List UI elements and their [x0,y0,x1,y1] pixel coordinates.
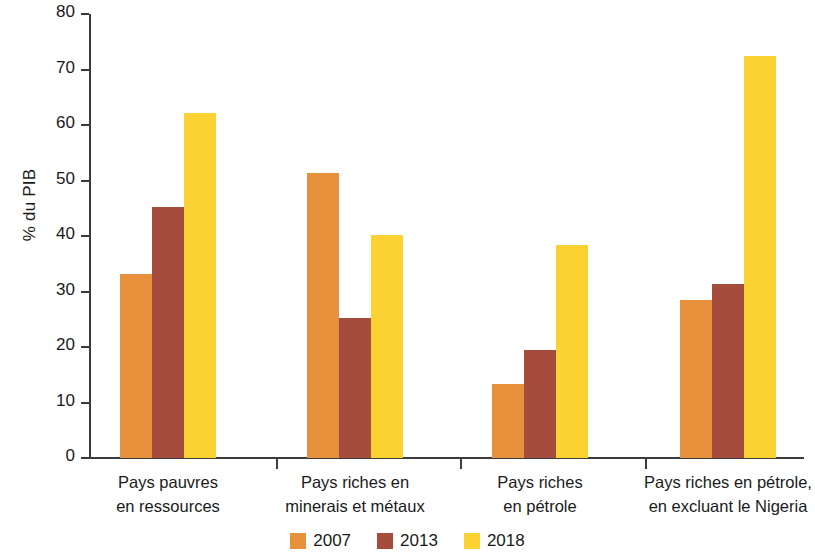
legend-swatch-2018 [464,533,480,549]
x-group-separator-1 [276,459,278,469]
category-label-3-line-1: Pays riches [430,470,650,494]
bar-2013-group-3 [524,350,556,458]
category-label-3-line-2: en pétrole [430,494,650,518]
y-tick-60: 60 [81,124,89,126]
y-axis-line [89,14,91,458]
bar-2007-group-1 [120,274,152,458]
y-tick-label-70: 70 [35,58,75,78]
bar-2007-group-3 [492,384,524,458]
y-tick-label-10: 10 [35,391,75,411]
bar-2018-group-3 [556,245,588,458]
plot-area: 80706050403020100 [89,14,804,458]
y-axis-label: % du PIB [20,145,40,265]
bar-2007-group-2 [307,173,339,458]
y-tick-label-80: 80 [35,2,75,22]
y-tick-70: 70 [81,69,89,71]
legend-label-2013: 2013 [400,531,438,551]
y-tick-label-20: 20 [35,335,75,355]
y-tick-40: 40 [81,235,89,237]
bar-2013-group-1 [152,207,184,458]
y-tick-20: 20 [81,346,89,348]
category-label-4: Pays riches en pétrole,en excluant le Ni… [618,470,815,518]
y-tick-label-0: 0 [35,446,75,466]
bar-2018-group-4 [744,56,776,458]
y-tick-label-40: 40 [35,224,75,244]
bar-chart: % du PIB 80706050403020100 Pays pauvrese… [0,0,815,557]
x-group-separator-2 [460,459,462,469]
x-group-separator-3 [645,459,647,469]
y-tick-30: 30 [81,291,89,293]
bar-2007-group-4 [680,300,712,458]
y-tick-label-30: 30 [35,280,75,300]
legend-item-2013[interactable]: 2013 [377,531,438,551]
category-label-4-line-1: Pays riches en pétrole, [618,470,815,494]
bar-2013-group-2 [339,318,371,458]
y-tick-80: 80 [81,13,89,15]
legend-swatch-2007 [290,533,306,549]
category-label-3: Pays richesen pétrole [430,470,650,518]
legend-label-2018: 2018 [487,531,525,551]
bar-2018-group-2 [371,235,403,458]
y-tick-10: 10 [81,402,89,404]
category-label-4-line-2: en excluant le Nigeria [618,494,815,518]
chart-legend: 200720132018 [0,531,815,551]
bar-2018-group-1 [184,113,216,458]
bar-2013-group-4 [712,284,744,458]
legend-label-2007: 2007 [313,531,351,551]
legend-swatch-2013 [377,533,393,549]
legend-item-2007[interactable]: 2007 [290,531,351,551]
y-tick-0: 0 [81,457,89,459]
y-tick-label-60: 60 [35,113,75,133]
legend-item-2018[interactable]: 2018 [464,531,525,551]
y-tick-label-50: 50 [35,169,75,189]
y-tick-50: 50 [81,180,89,182]
